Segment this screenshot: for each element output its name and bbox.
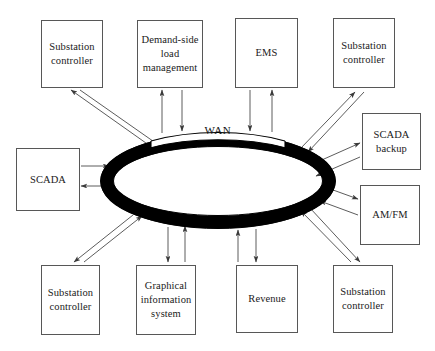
wan-label: WAN	[190, 124, 246, 136]
node-label: Revenue	[248, 292, 285, 306]
node-label: AM/FM	[372, 208, 408, 222]
node-scada[interactable]: SCADA	[16, 148, 80, 211]
arrow-ring-to-substation-top-right	[300, 92, 355, 149]
arrow-ring-to-substation-bot-right	[310, 208, 360, 262]
arrow-substation-top-left-to-ring	[80, 90, 160, 146]
arrow-substation-top-right-to-ring	[308, 92, 364, 152]
node-label: EMS	[256, 46, 278, 60]
node-substation-controller-bottom-right[interactable]: Substation controller	[333, 265, 393, 333]
wan-ring-band	[107, 140, 329, 222]
node-ems[interactable]: EMS	[235, 18, 298, 88]
node-revenue[interactable]: Revenue	[236, 265, 298, 333]
node-scada-backup[interactable]: SCADA backup	[362, 113, 421, 170]
wan-ring	[101, 133, 336, 229]
wan-topology-diagram: WAN Substation controller Demand-side lo…	[0, 0, 435, 351]
wan-ring-inner-edge	[114, 147, 323, 216]
arrow-am-fm-to-ring	[320, 201, 358, 215]
arrow-ring-to-substation-top-left	[71, 90, 153, 148]
node-substation-controller-bottom-left[interactable]: Substation controller	[41, 265, 100, 335]
node-substation-controller-top-left[interactable]: Substation controller	[41, 20, 103, 88]
arrow-substation-bot-right-to-ring	[301, 211, 351, 262]
node-graphical-information-system[interactable]: Graphical information system	[136, 265, 196, 335]
node-label: Substation controller	[48, 286, 93, 314]
node-label: Graphical information system	[141, 279, 192, 321]
arrow-substation-bot-left-to-ring	[84, 216, 142, 262]
node-label: Demand-side load management	[141, 33, 198, 75]
node-label: SCADA	[30, 173, 66, 187]
node-label: Substation controller	[341, 39, 386, 67]
node-label: Substation controller	[49, 40, 94, 68]
node-label: Substation controller	[340, 285, 385, 313]
node-label: SCADA backup	[373, 128, 409, 156]
arrow-ring-to-substation-bot-left	[74, 215, 133, 262]
node-substation-controller-top-right[interactable]: Substation controller	[333, 18, 395, 88]
node-am-fm[interactable]: AM/FM	[360, 185, 420, 245]
node-demand-side-load-management[interactable]: Demand-side load management	[137, 20, 203, 88]
